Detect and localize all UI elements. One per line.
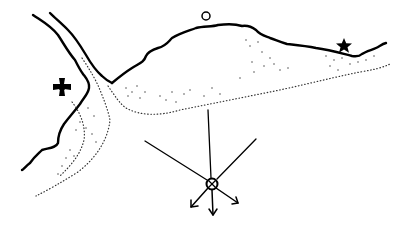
coastline-left-outer [22,15,89,170]
map-diagram [0,0,407,232]
maltese-cross-icon [53,78,71,96]
beach-dotted-edge-1 [36,58,110,196]
compass-rays [145,110,256,180]
star-icon [336,38,352,53]
compass-arrows [191,188,238,215]
map-canvas [0,0,407,232]
sand-dots [57,39,375,175]
coastline-main [112,24,386,83]
circle-icon [202,12,210,20]
beach-dotted-edge-2 [108,64,390,114]
